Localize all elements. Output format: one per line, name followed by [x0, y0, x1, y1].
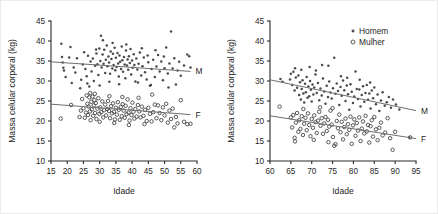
data-point — [388, 96, 391, 99]
data-point — [136, 103, 140, 107]
x-axis-tick-label: 15 — [46, 167, 56, 176]
data-point — [168, 62, 171, 65]
data-point — [361, 120, 365, 124]
data-point — [348, 109, 351, 112]
data-point — [324, 103, 327, 106]
x-axis-tick-label: 65 — [286, 167, 296, 176]
data-point — [105, 59, 108, 62]
regression-line-f — [51, 104, 191, 114]
data-point — [383, 105, 386, 108]
data-point — [157, 54, 160, 57]
data-point — [173, 57, 176, 60]
data-point — [76, 57, 79, 60]
data-point — [321, 64, 324, 67]
data-point — [392, 98, 395, 101]
y-axis-tick-label: 20 — [255, 117, 265, 126]
data-point — [123, 63, 126, 66]
data-point — [290, 73, 293, 76]
data-point — [68, 56, 71, 59]
data-point — [88, 85, 91, 88]
y-axis-tick-label: 25 — [255, 97, 265, 106]
series-homem — [60, 30, 192, 89]
data-point — [344, 117, 348, 121]
data-point — [179, 98, 183, 102]
data-point — [386, 116, 390, 120]
data-point — [171, 67, 174, 70]
data-point — [98, 120, 102, 124]
data-point — [351, 91, 354, 94]
axis-frame — [51, 21, 197, 161]
data-point — [84, 68, 87, 71]
data-point — [338, 104, 341, 107]
data-point — [295, 76, 298, 79]
axis-frame — [270, 21, 416, 161]
data-point — [325, 85, 328, 88]
data-point — [121, 95, 125, 99]
data-point — [150, 120, 154, 124]
data-point — [292, 71, 295, 74]
data-point — [137, 96, 141, 100]
y-axis-tick-label: 10 — [255, 157, 265, 166]
data-point — [113, 47, 116, 50]
data-point — [353, 118, 357, 122]
data-point — [115, 57, 118, 60]
y-axis-tick-label: 20 — [36, 117, 46, 126]
data-point — [351, 124, 355, 128]
legend-marker-homem — [352, 30, 355, 33]
data-point — [174, 115, 178, 119]
data-point — [145, 78, 148, 81]
data-point — [95, 48, 98, 51]
data-point — [141, 47, 144, 50]
data-point — [102, 39, 105, 42]
series-homem — [279, 57, 410, 139]
data-point — [363, 101, 366, 104]
data-point — [121, 59, 124, 62]
data-point — [115, 113, 119, 117]
data-point — [123, 116, 127, 120]
scatter-plot-right: 10152025303540456065707580859095IdadeMas… — [220, 1, 438, 214]
data-point — [299, 127, 303, 131]
data-point — [131, 59, 134, 62]
data-point — [381, 91, 384, 94]
data-point — [93, 80, 96, 83]
data-point — [278, 105, 282, 109]
data-point — [317, 82, 320, 85]
data-point — [111, 42, 114, 45]
data-point — [80, 97, 84, 101]
data-point — [300, 114, 304, 118]
data-point — [78, 115, 82, 119]
data-point — [359, 139, 363, 143]
data-point — [79, 87, 82, 90]
data-point — [352, 102, 355, 105]
data-point — [312, 138, 316, 142]
data-point — [120, 45, 123, 48]
data-point — [109, 50, 112, 53]
data-point — [303, 101, 306, 104]
y-axis-tick-label: 15 — [255, 137, 265, 146]
data-point — [155, 116, 159, 120]
x-axis-title: Idade — [332, 186, 354, 196]
series-mulher — [278, 105, 412, 152]
data-point — [99, 60, 102, 63]
data-point — [155, 65, 158, 68]
data-point — [371, 135, 375, 139]
data-point — [325, 129, 329, 133]
data-point — [293, 136, 297, 140]
data-point — [137, 63, 140, 66]
data-point — [302, 122, 306, 126]
data-point — [167, 86, 170, 89]
data-point — [326, 118, 330, 122]
data-point — [302, 92, 305, 95]
data-point — [83, 51, 86, 54]
data-point — [349, 83, 352, 86]
regression-label-f: F — [421, 134, 426, 144]
data-point — [147, 106, 151, 110]
data-point — [347, 93, 350, 96]
data-point — [309, 80, 312, 83]
data-point — [188, 55, 191, 58]
data-point — [59, 117, 63, 121]
data-point — [313, 86, 316, 89]
data-point — [147, 61, 150, 64]
data-point — [290, 126, 294, 129]
data-point — [126, 58, 128, 61]
